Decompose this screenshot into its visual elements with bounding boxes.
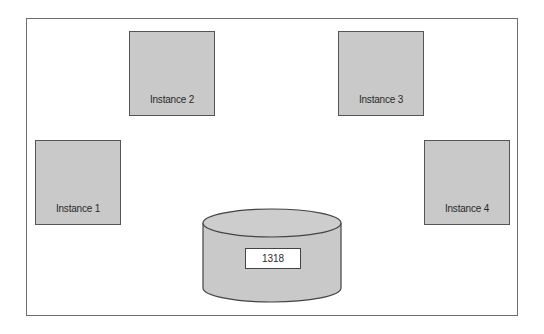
instance-4-box: Instance 4 (424, 140, 510, 225)
database-label: 1318 (245, 248, 301, 269)
instance-3-label: Instance 3 (339, 94, 423, 105)
instance-1-label: Instance 1 (36, 203, 120, 214)
instance-2-label: Instance 2 (130, 94, 214, 105)
instance-3-box: Instance 3 (338, 31, 424, 116)
instance-1-box: Instance 1 (35, 140, 121, 225)
instance-2-box: Instance 2 (129, 31, 215, 116)
instance-4-label: Instance 4 (425, 203, 509, 214)
